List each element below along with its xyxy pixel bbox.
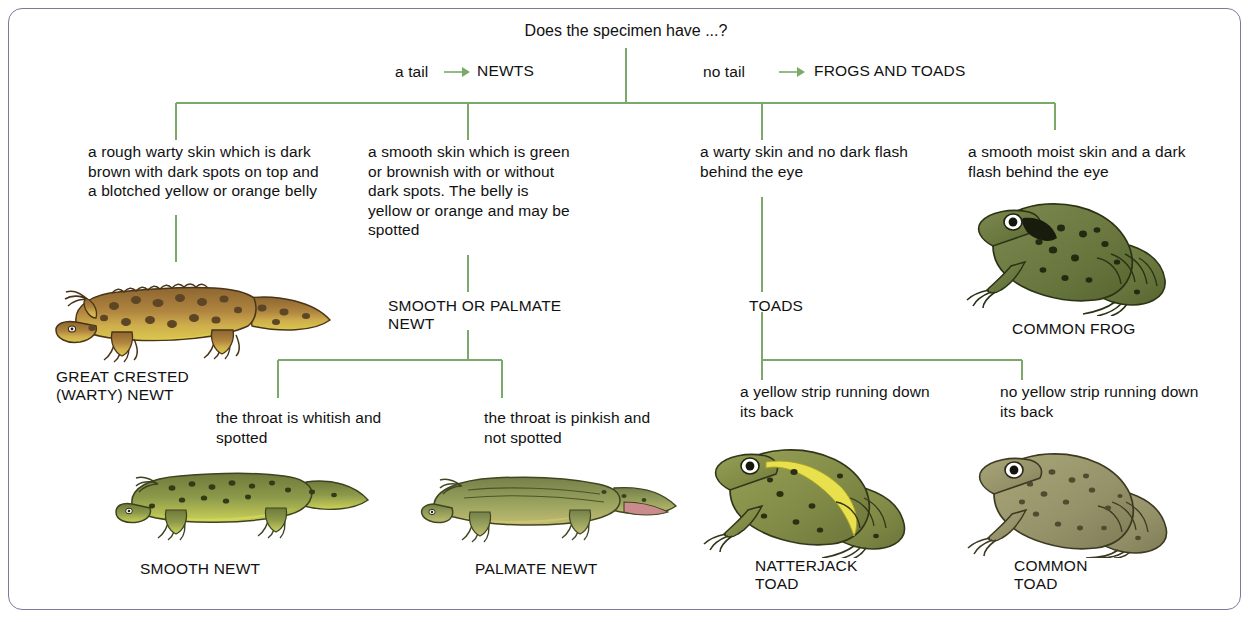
description-smooth-newt: the throat is whitish and spotted (216, 408, 401, 447)
label-common-frog: COMMON FROG (1012, 320, 1136, 339)
label-natterjack-toad-line1: NATTERJACK (755, 557, 857, 576)
description-smooth-or-palmate-newt: a smooth skin which is green or brownish… (368, 142, 573, 240)
label-great-crested-newt-line1: GREAT CRESTED (56, 368, 189, 387)
branch-target-newts: NEWTS (477, 62, 534, 81)
label-smooth-or-palmate-newt-line1: SMOOTH OR PALMATE (388, 297, 561, 316)
page-title: Does the specimen have ...? (426, 22, 826, 40)
palmate-newt-illustration (418, 458, 680, 548)
description-toads: a warty skin and no dark flash behind th… (700, 142, 930, 181)
description-natterjack-toad: a yellow strip running down its back (740, 382, 940, 421)
label-smooth-newt: SMOOTH NEWT (140, 560, 260, 579)
label-common-toad-line2: TOAD (1014, 575, 1058, 594)
description-common-frog: a smooth moist skin and a dark flash beh… (968, 142, 1208, 181)
label-great-crested-newt-line2: (WARTY) NEWT (56, 386, 174, 405)
label-smooth-or-palmate-newt-line2: NEWT (388, 315, 434, 334)
description-common-toad: no yellow strip running down its back (1000, 382, 1200, 421)
branch-label-left: a tail (395, 62, 428, 82)
description-great-crested-newt: a rough warty skin which is dark brown w… (88, 142, 323, 201)
label-common-toad-line1: COMMON (1014, 557, 1088, 576)
natterjack-toad-illustration (700, 436, 930, 558)
common-toad-illustration (960, 436, 1190, 558)
label-natterjack-toad-line2: TOAD (755, 575, 799, 594)
great-crested-newt-illustration (52, 262, 332, 370)
branch-target-frogs-toads: FROGS AND TOADS (814, 62, 965, 81)
label-palmate-newt: PALMATE NEWT (475, 560, 597, 579)
description-palmate-newt: the throat is pinkish and not spotted (484, 408, 669, 447)
label-toads: TOADS (749, 297, 803, 316)
identification-key-diagram: Does the specimen have ...? a tail NEWTS… (0, 0, 1253, 622)
smooth-newt-illustration (112, 448, 372, 548)
common-frog-illustration (965, 188, 1183, 316)
branch-label-right: no tail (703, 62, 745, 82)
